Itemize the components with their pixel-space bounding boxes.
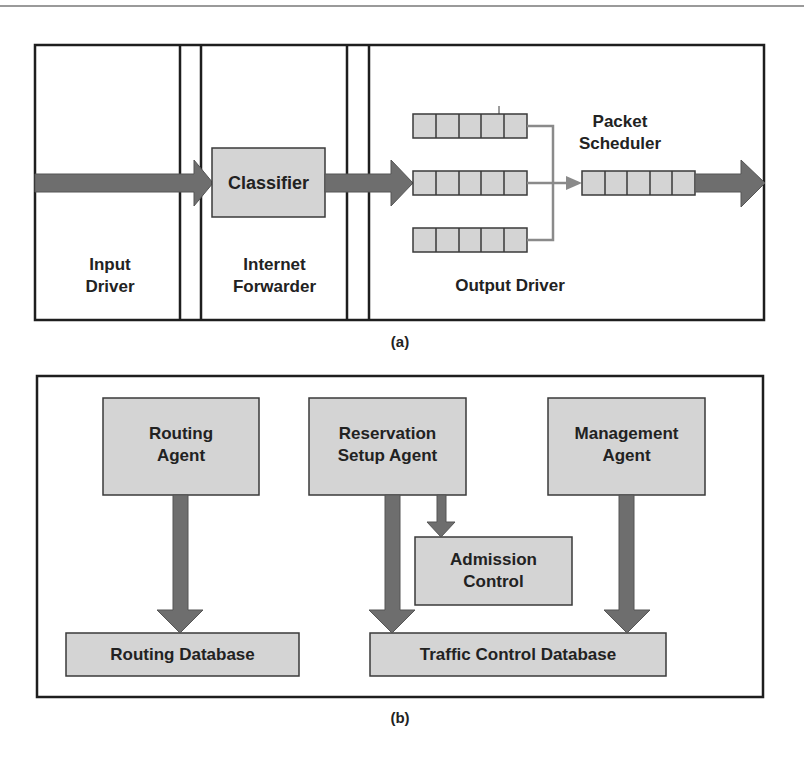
input-arrow-icon (35, 160, 213, 206)
output-arrow-icon (695, 160, 765, 207)
reservation-to-traffic-db-arrow-icon (369, 495, 415, 633)
reservation-setup-agent-label: Reservation Setup Agent (309, 410, 466, 480)
internet-forwarder-label: Internet Forwarder (212, 251, 337, 301)
traffic-control-database-label: Traffic Control Database (370, 633, 666, 676)
output-queue (582, 171, 695, 195)
packet-scheduler-label: Packet Scheduler (560, 108, 680, 158)
scheduler-arrow-icon (566, 176, 582, 190)
input-queue-bottom (413, 228, 527, 252)
management-to-traffic-db-arrow-icon (604, 495, 650, 633)
routing-agent-label: Routing Agent (103, 410, 259, 480)
input-queue-top (413, 106, 527, 138)
routing-database-label: Routing Database (66, 633, 299, 676)
input-driver-label: Input Driver (60, 251, 160, 301)
reservation-to-admission-arrow-icon (427, 495, 455, 537)
caption-a: (a) (370, 333, 430, 350)
admission-control-label: Admission Control (415, 537, 572, 605)
output-driver-label: Output Driver (430, 274, 590, 298)
classifier-label: Classifier (212, 148, 325, 217)
routing-to-db-arrow-icon (157, 495, 203, 633)
caption-b: (b) (370, 709, 430, 726)
input-queue-middle (413, 171, 527, 195)
management-agent-label: Management Agent (548, 410, 705, 480)
